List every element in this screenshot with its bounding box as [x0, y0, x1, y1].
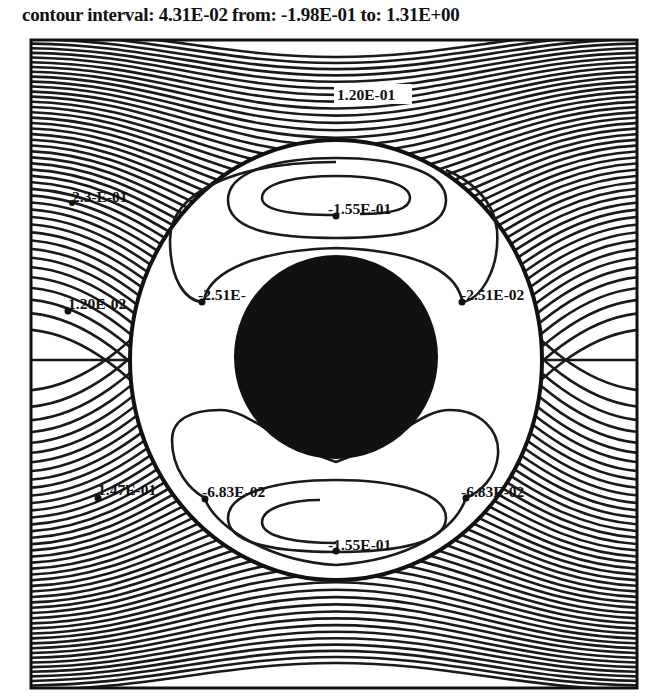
contour-plot: 1.20E-01 2.3-E-01 -1.55E-01 1.20E-02 -2.…	[0, 0, 662, 700]
contour-label-lower-inner-left: -6.83E-02	[202, 483, 266, 500]
contour-label-left: 1.20E-02	[68, 295, 126, 312]
contour-label-lower-inner-right: -6.83E-02	[461, 483, 525, 500]
contour-label-inner-left: -2.51E-	[198, 286, 246, 303]
cylinder-body	[234, 255, 438, 459]
contour-label-inner-right: -2.51E-02	[461, 286, 525, 303]
contour-label-lower-vortex: -1.55E-01	[328, 536, 391, 553]
contour-label-top: 1.20E-01	[337, 86, 395, 103]
contour-label-upper-vortex: -1.55E-01	[328, 200, 391, 217]
contour-label-lower-left: 1.47E-01	[98, 481, 156, 498]
contour-label-upper-left: 2.3-E-01	[72, 188, 128, 205]
